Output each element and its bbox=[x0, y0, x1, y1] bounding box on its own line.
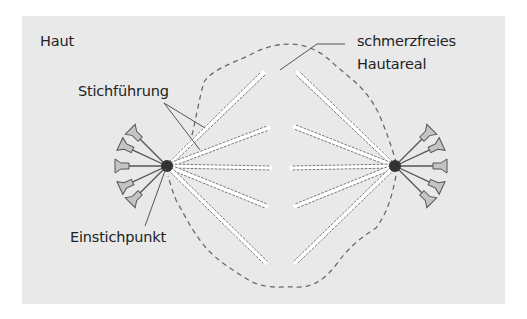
label-needle-path: Stichführung bbox=[78, 84, 169, 99]
injection-point-right bbox=[389, 160, 401, 172]
label-insertion-point: Einstichpunkt bbox=[70, 230, 166, 245]
needle-tracks-left bbox=[165, 72, 270, 263]
label-skin: Haut bbox=[40, 34, 74, 49]
needle-tracks-right bbox=[292, 72, 397, 263]
label-pain-free-area-1: schmerzfreies bbox=[357, 34, 456, 49]
leader-pain-free-area bbox=[280, 44, 345, 70]
leader-needle-path-a bbox=[164, 103, 205, 128]
label-pain-free-area-2: Hautareal bbox=[357, 57, 426, 72]
leader-needle-path-b bbox=[164, 103, 200, 150]
injection-point-left bbox=[161, 160, 173, 172]
